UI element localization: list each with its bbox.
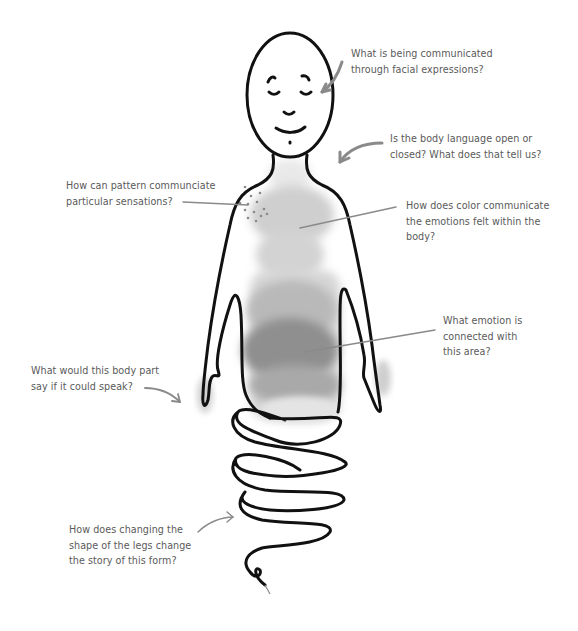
annotation-line: What would this body part	[31, 363, 159, 379]
annotation-line: particular sensations?	[66, 194, 215, 210]
annotation-line: How does color communicate	[406, 198, 549, 214]
annotation-line: say if it could speak?	[31, 379, 159, 395]
annotation-body-language: Is the body language open or closed? Wha…	[390, 131, 541, 162]
body-map-diagram: What is being communicated through facia…	[0, 0, 578, 631]
annotation-line: How can pattern communciate	[66, 178, 215, 194]
annotation-emotion-area: What emotion is connected with this area…	[443, 313, 522, 360]
mouth	[276, 127, 305, 132]
annotation-line: the story of this form?	[69, 553, 191, 569]
right-eye	[301, 92, 311, 94]
right-eyebrow	[302, 76, 309, 80]
arrow-legs	[198, 517, 233, 532]
annotation-facial-expressions: What is being communicated through facia…	[351, 46, 493, 77]
left-eyebrow	[268, 77, 275, 82]
annotation-line: How does changing the	[69, 522, 191, 538]
coiled-legs	[233, 410, 346, 585]
annotation-line: through facial expressions?	[351, 62, 493, 78]
annotation-line: body?	[406, 229, 549, 245]
annotation-pattern: How can pattern communciate particular s…	[66, 178, 215, 209]
annotation-line: What is being communicated	[351, 46, 493, 62]
annotation-line: the emotions felt within the	[406, 214, 549, 230]
annotation-line: this area?	[443, 344, 522, 360]
annotation-color: How does color communicate the emotions …	[406, 198, 549, 245]
annotation-legs-shape: How does changing the shape of the legs …	[69, 522, 191, 569]
annotation-body-part-speak: What would this body part say if it coul…	[31, 363, 159, 394]
left-eye	[269, 92, 279, 94]
annotation-line: closed? What does that tell us?	[390, 147, 541, 163]
annotation-line: Is the body language open or	[390, 131, 541, 147]
nose	[284, 112, 294, 114]
annotation-line: connected with	[443, 329, 522, 345]
annotation-line: What emotion is	[443, 313, 522, 329]
leg-tail	[265, 585, 270, 594]
head	[247, 33, 333, 157]
watercolor-shading	[197, 159, 391, 424]
annotation-line: shape of the legs change	[69, 538, 191, 554]
